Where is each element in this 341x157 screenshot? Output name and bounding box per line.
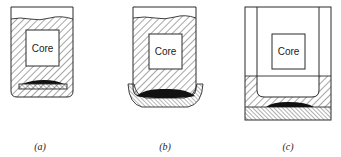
panel-b: Core (b): [128, 7, 203, 153]
caption-b: (b): [159, 141, 171, 153]
caption-c: (c): [282, 141, 294, 153]
core-label: Core: [32, 43, 54, 54]
caption-a: (a): [34, 141, 46, 153]
core-label: Core: [155, 46, 177, 57]
core-label: Core: [278, 46, 300, 57]
panel-a: Core (a): [11, 7, 73, 153]
mold-diagram: Core (a) Core (b): [0, 0, 341, 157]
chill-plate: [19, 84, 67, 89]
inner-u-liner-fill: [257, 76, 319, 97]
panel-c: Core (c): [245, 7, 331, 153]
fine-hatched-base: [245, 107, 331, 120]
